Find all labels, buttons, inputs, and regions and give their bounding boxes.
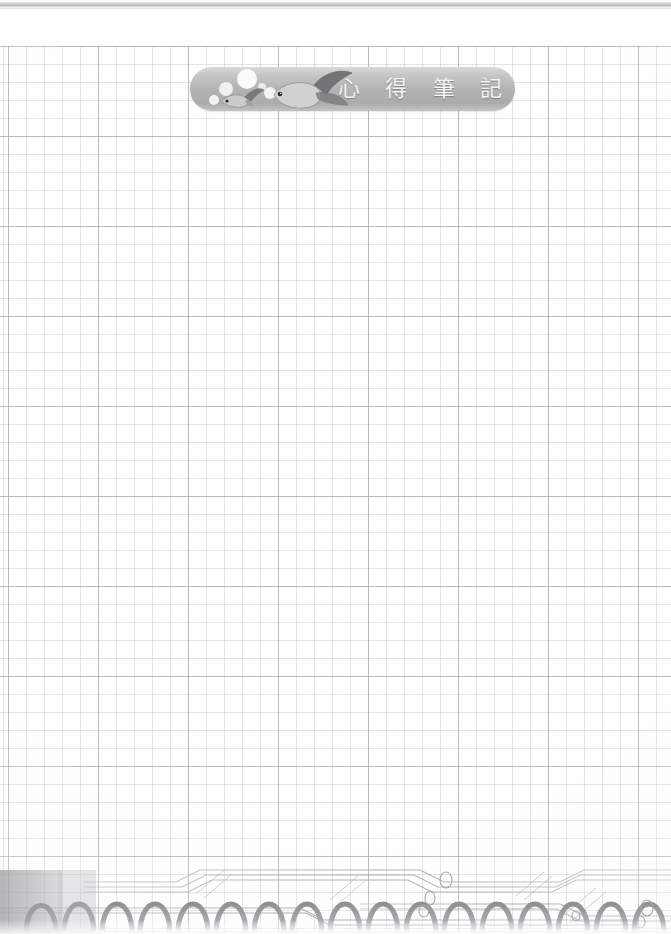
notes-writing-area[interactable]: [8, 120, 663, 850]
binding-end-block-secondary: [58, 870, 96, 934]
title-char-1: 心: [338, 78, 360, 100]
bubble-icon: [237, 69, 257, 89]
binding-end-block: [0, 870, 62, 934]
title-banner: 心 得 筆 記: [190, 67, 515, 111]
title-char-3: 筆: [433, 78, 455, 100]
accent-line-group: [0, 870, 671, 925]
coil-base-shadow: [0, 930, 671, 934]
bubble-icon: [264, 87, 276, 99]
page-edge-hairline: [0, 8, 671, 9]
ring-icon: [425, 891, 435, 905]
notebook-page: 心 得 筆 記: [0, 0, 671, 934]
title-char-4: 記: [480, 78, 502, 100]
bubble-icon: [219, 82, 233, 96]
bubble-icon: [209, 95, 219, 105]
ring-icon: [440, 872, 452, 888]
spiral-binding-graphic: [0, 858, 671, 934]
title-char-2: 得: [385, 78, 407, 100]
spiral-coils: [0, 858, 671, 934]
banner-title: 心 得 筆 記: [338, 67, 508, 111]
